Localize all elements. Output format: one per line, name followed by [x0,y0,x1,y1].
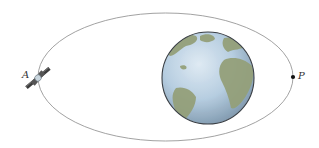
apogee-label: A [22,70,29,80]
earth-globe [162,32,254,124]
perigee-label: P [298,71,305,81]
orbit-diagram [0,0,319,148]
perigee-point [291,75,295,79]
